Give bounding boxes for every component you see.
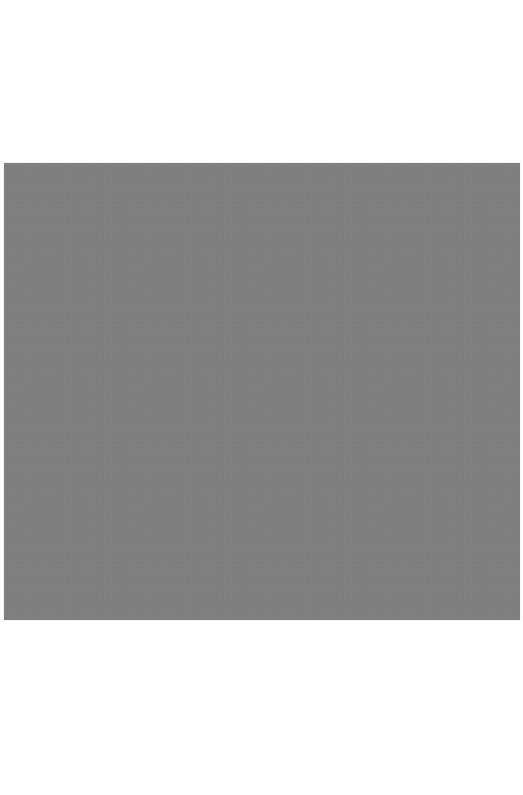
- panel-texture: [4, 163, 520, 620]
- grey-image-panel: [4, 163, 520, 620]
- blank-canvas: [0, 0, 523, 795]
